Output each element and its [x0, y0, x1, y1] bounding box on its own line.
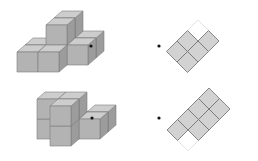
match-dot: [89, 44, 92, 47]
diagram-canvas: [0, 0, 258, 161]
cube-structure-1: [17, 11, 104, 72]
cube-front-face: [46, 25, 67, 45]
cube: [67, 38, 96, 65]
match-dot: [90, 116, 93, 119]
cube-front-face: [67, 45, 88, 65]
cube-front-face: [50, 106, 71, 126]
match-dot: [157, 44, 160, 47]
cube-front-face: [38, 52, 59, 72]
cube-front-face: [50, 126, 71, 146]
match-dot: [157, 116, 160, 119]
cube: [46, 18, 75, 45]
top-view-plan-2: [167, 88, 230, 151]
cube-front-face: [17, 52, 38, 72]
cube: [38, 45, 67, 72]
cube: [50, 99, 79, 126]
cube-structure-2: [37, 92, 116, 146]
cube-front-face: [79, 119, 100, 139]
cube: [79, 112, 108, 139]
top-view-plan-1: [167, 20, 220, 73]
